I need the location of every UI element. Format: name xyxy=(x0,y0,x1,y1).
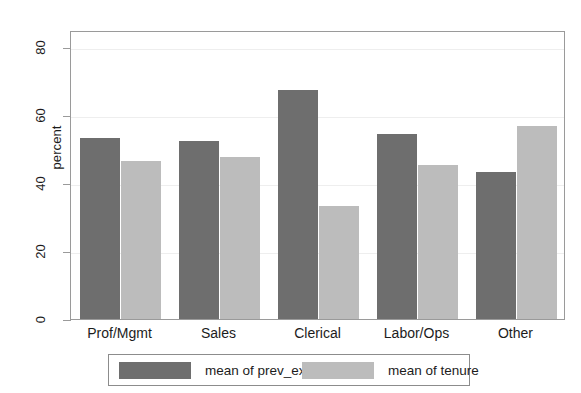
x-tick-label: Prof/Mgmt xyxy=(70,325,169,341)
plot-area xyxy=(70,31,565,320)
x-tick-label: Other xyxy=(466,325,565,341)
y-axis-title: percent xyxy=(49,98,64,198)
bar xyxy=(179,141,219,319)
bar xyxy=(121,161,161,319)
bar xyxy=(80,138,120,319)
y-tick-label: 40 xyxy=(33,164,48,204)
x-tick-label: Labor/Ops xyxy=(367,325,466,341)
legend-entry: mean of prev_exp xyxy=(119,355,313,385)
legend-entry: mean of tenure xyxy=(302,355,479,385)
bar xyxy=(476,172,516,319)
legend: mean of prev_expmean of tenure xyxy=(108,354,470,386)
bar xyxy=(517,126,557,319)
x-tick-label: Clerical xyxy=(268,325,367,341)
y-tick-label: 0 xyxy=(33,300,48,340)
x-tick-label: Sales xyxy=(169,325,268,341)
bar xyxy=(220,157,260,319)
legend-swatch xyxy=(119,362,191,379)
bar-chart-figure: percent 020406080 Prof/MgmtSalesClerical… xyxy=(0,0,581,393)
y-tick-label: 80 xyxy=(33,28,48,68)
legend-swatch xyxy=(302,362,374,379)
bar xyxy=(278,90,318,320)
bar xyxy=(418,165,458,319)
y-tick-label: 20 xyxy=(33,232,48,272)
y-tick-label: 60 xyxy=(33,96,48,136)
bar xyxy=(377,134,417,319)
legend-label: mean of tenure xyxy=(388,363,479,378)
bar xyxy=(319,206,359,319)
legend-label: mean of prev_exp xyxy=(205,363,313,378)
gridline xyxy=(71,49,564,50)
y-tick-mark xyxy=(63,320,71,321)
